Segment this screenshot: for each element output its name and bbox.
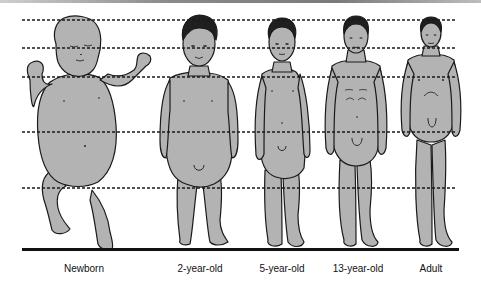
label-adult: Adult (420, 263, 443, 274)
figure-adult (401, 17, 461, 246)
label-5-year-old: 5-year-old (259, 263, 304, 274)
proportion-diagram (0, 0, 481, 293)
label-2-year-old: 2-year-old (177, 263, 222, 274)
label-13-year-old: 13-year-old (333, 263, 384, 274)
figure-13-year-old (325, 16, 387, 246)
figure-2-year-old (160, 15, 238, 245)
label-newborn: Newborn (64, 263, 104, 274)
